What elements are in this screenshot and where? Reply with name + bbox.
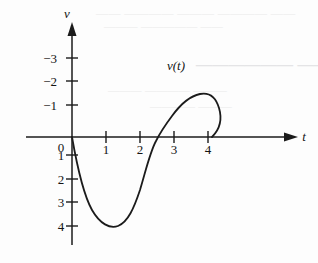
curve-label: v(t) [167,58,185,73]
y-label-4: 4 [58,219,65,234]
y-label-3: 3 [58,195,65,210]
y-label-2: 2 [58,172,65,187]
x-label-4: 4 [205,142,212,157]
y-axis-arrowhead [68,22,77,36]
x-axis-label: t [302,129,306,144]
velocity-time-figure: —— ———— ——— ———— —— ——— ————— —— —————— … [0,0,318,263]
y-axis-label: v [64,6,70,21]
y-label-minus1: −1 [43,98,57,113]
velocity-curve [72,94,221,227]
y-label-minus3: −3 [43,51,57,66]
y-label-minus2: −2 [43,74,57,89]
y-label-1: 1 [58,148,65,163]
plot-canvas: v t v(t) 0 −3 −2 −1 1 2 3 4 1 2 3 4 [0,0,318,263]
x-label-1: 1 [103,142,110,157]
x-label-3: 3 [171,142,178,157]
x-axis-arrowhead [284,133,298,142]
x-label-2: 2 [137,142,144,157]
